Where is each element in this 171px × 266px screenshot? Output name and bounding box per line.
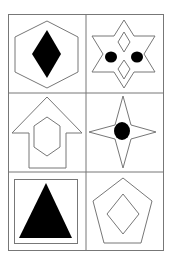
lower-diamond-icon [118, 60, 130, 79]
arrow-up-icon [12, 97, 82, 168]
filled-triangle-icon [19, 183, 72, 238]
diamond-icon [107, 194, 139, 234]
right-dot-icon [131, 52, 143, 63]
cell-arrow-hexagon [12, 97, 82, 168]
figure-grid [0, 0, 171, 266]
cell-star-dots [92, 20, 155, 88]
cell-hexagon-diamond [15, 21, 78, 88]
upper-diamond-icon [118, 32, 130, 52]
cell-square-triangle [15, 180, 78, 244]
hexagon-icon [34, 117, 60, 156]
filled-circle-icon [114, 122, 130, 140]
cell-pentagon-diamond [93, 178, 152, 243]
left-dot-icon [105, 52, 117, 63]
cell-four-star-circle [89, 96, 156, 168]
filled-diamond-icon [32, 30, 61, 78]
